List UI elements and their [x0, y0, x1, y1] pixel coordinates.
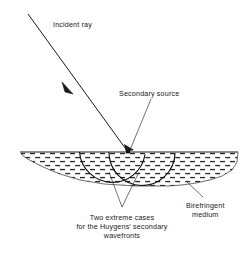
secondary-source-group: [124, 99, 151, 153]
label-wavefronts-line2: for the Huygens' secondary: [76, 222, 167, 231]
label-incident-ray: Incident ray: [53, 20, 92, 29]
incident-ray-line: [28, 14, 128, 152]
incident-ray-group: [28, 14, 128, 152]
secondary-source-leader: [130, 99, 151, 150]
incident-ray-arrow-icon: [62, 82, 73, 94]
label-wavefronts-line1: Two extreme cases: [90, 213, 155, 222]
label-birefringent-line2: medium: [192, 210, 218, 219]
label-wavefronts-line3: wavefronts: [103, 231, 141, 240]
figure-canvas: Incident ray Secondary source Birefringe…: [0, 0, 244, 255]
secondary-source-point-marker: [126, 150, 130, 153]
birefringent-medium-region: [14, 150, 244, 192]
label-secondary-source: Secondary source: [119, 89, 179, 98]
label-birefringent-line1: Birefringent: [186, 201, 225, 210]
huygens-diagram: Incident ray Secondary source Birefringe…: [0, 0, 244, 255]
